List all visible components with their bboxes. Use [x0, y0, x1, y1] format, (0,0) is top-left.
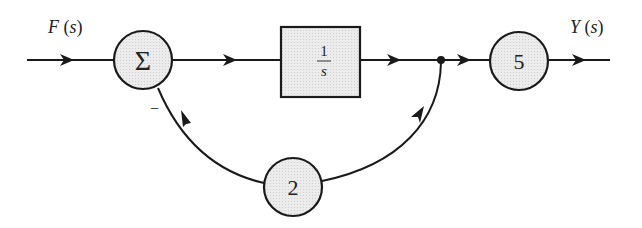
integrator-numerator: 1 [320, 43, 328, 59]
sigma-symbol: Σ [135, 45, 151, 76]
integrator-block: 1 s [281, 27, 360, 97]
arrow-icon [411, 106, 424, 123]
feedback-gain-block: 2 [264, 158, 322, 216]
input-signal-line [27, 54, 114, 66]
summing-junction: Σ [114, 31, 172, 89]
forward-gain-block: 5 [490, 32, 548, 90]
forward-gain-value: 5 [514, 49, 525, 74]
feedback-gain-value: 2 [288, 175, 299, 200]
forward-signal-line [360, 54, 490, 66]
output-label: Y (s) [570, 17, 604, 38]
integrator-denominator: s [321, 63, 327, 79]
feedback-sign: − [150, 100, 159, 117]
output-signal-line [548, 54, 610, 66]
arrow-icon [181, 110, 191, 127]
block-diagram: F (s) Σ − 1 s 5 Y (s) [0, 0, 642, 228]
error-signal-line [172, 54, 281, 66]
input-label: F (s) [47, 17, 83, 38]
